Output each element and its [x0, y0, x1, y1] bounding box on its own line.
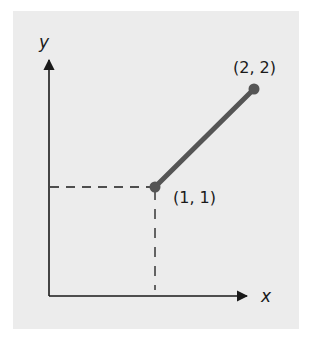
y-axis-label: y [38, 32, 50, 52]
point-label-1-1: (1, 1) [173, 188, 216, 207]
coordinate-diagram: y x (1, 1) (2, 2) [0, 0, 311, 338]
point-2-2 [249, 84, 260, 95]
x-axis-label: x [260, 286, 272, 306]
point-1-1 [150, 182, 161, 193]
point-label-2-2: (2, 2) [233, 58, 276, 77]
line-segment [155, 89, 254, 187]
